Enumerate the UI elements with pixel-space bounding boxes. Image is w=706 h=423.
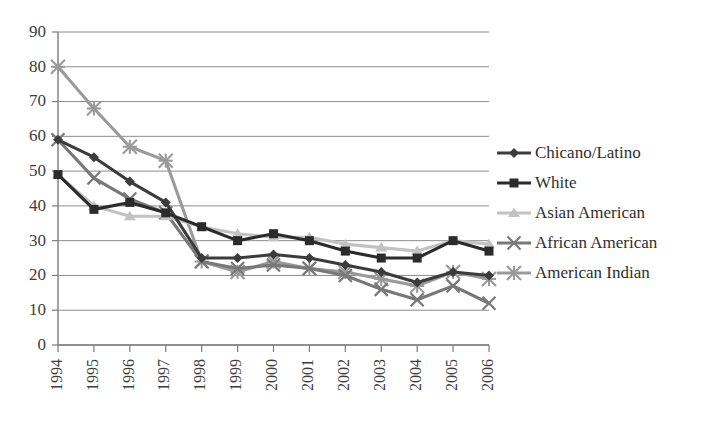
series-line xyxy=(58,175,489,258)
series-african-american xyxy=(52,133,496,309)
x-axis-tick-label: 1998 xyxy=(191,359,208,391)
data-point-marker xyxy=(305,236,314,245)
x-axis-tick-label: 2006 xyxy=(479,359,496,391)
data-point-marker xyxy=(233,253,243,263)
legend-item-label: Asian American xyxy=(535,203,645,222)
y-axis-tick-label: 30 xyxy=(29,231,46,250)
data-point-marker xyxy=(377,254,386,263)
legend-marker-icon xyxy=(509,148,519,158)
x-axis-tick-label: 2000 xyxy=(263,359,280,391)
series-asian-american xyxy=(52,169,495,255)
legend-item-label: American Indian xyxy=(535,263,650,282)
y-axis-tick-label: 10 xyxy=(29,300,46,319)
data-point-marker xyxy=(125,198,134,207)
data-point-marker xyxy=(54,170,63,179)
data-point-marker xyxy=(89,205,98,214)
y-axis-tick-label: 70 xyxy=(29,91,46,110)
y-axis-tick-label: 80 xyxy=(29,57,46,76)
y-axis-tick-label: 60 xyxy=(29,126,46,145)
data-point-marker xyxy=(304,253,314,263)
legend-marker-icon xyxy=(510,179,519,188)
data-point-marker xyxy=(485,247,494,256)
data-point-marker xyxy=(269,229,278,238)
y-axis-tick-label: 0 xyxy=(38,335,47,354)
data-point-marker xyxy=(413,254,422,263)
y-axis-tick-label: 90 xyxy=(29,22,46,41)
data-point-marker xyxy=(161,208,170,217)
line-chart: 0102030405060708090199419951996199719981… xyxy=(0,0,706,423)
legend-item-label: White xyxy=(535,173,577,192)
x-axis-tick-label: 1996 xyxy=(120,359,137,391)
y-axis-tick-label: 50 xyxy=(29,161,46,180)
data-point-marker xyxy=(449,236,458,245)
legend-item-label: African American xyxy=(535,233,658,252)
data-point-marker xyxy=(341,247,350,256)
x-axis-tick-label: 1997 xyxy=(155,359,172,391)
y-axis-tick-label: 20 xyxy=(29,265,46,284)
x-axis-tick-label: 2005 xyxy=(443,359,460,391)
y-axis-tick-label: 40 xyxy=(29,196,46,215)
x-axis-tick-label: 1994 xyxy=(48,359,65,391)
x-axis-tick-label: 2001 xyxy=(299,359,316,391)
x-axis-tick-label: 2002 xyxy=(335,359,352,391)
legend-item-label: Chicano/Latino xyxy=(535,143,641,162)
x-axis-tick-label: 2003 xyxy=(371,359,388,391)
legend-item-chicano-latino[interactable]: Chicano/Latino xyxy=(497,143,641,162)
legend-item-african-american[interactable]: African American xyxy=(497,233,658,252)
data-point-marker xyxy=(233,236,242,245)
chart-canvas: 0102030405060708090199419951996199719981… xyxy=(0,0,706,423)
legend-item-asian-american[interactable]: Asian American xyxy=(497,203,645,222)
data-point-marker xyxy=(197,222,206,231)
legend-item-american-indian[interactable]: American Indian xyxy=(497,263,650,282)
legend-item-white[interactable]: White xyxy=(497,173,577,192)
x-axis-tick-label: 2004 xyxy=(407,359,424,391)
x-axis-tick-label: 1995 xyxy=(84,359,101,391)
x-axis-tick-label: 1999 xyxy=(227,359,244,391)
